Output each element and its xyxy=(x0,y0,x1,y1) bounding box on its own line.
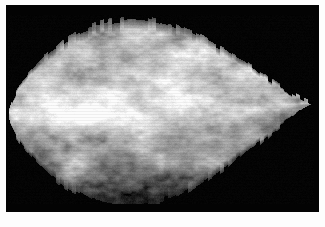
specimen-container xyxy=(8,15,314,204)
specimen-surface-render xyxy=(8,15,314,204)
image-frame xyxy=(6,5,319,212)
figure-root xyxy=(0,0,325,227)
figure-caption xyxy=(6,214,319,226)
